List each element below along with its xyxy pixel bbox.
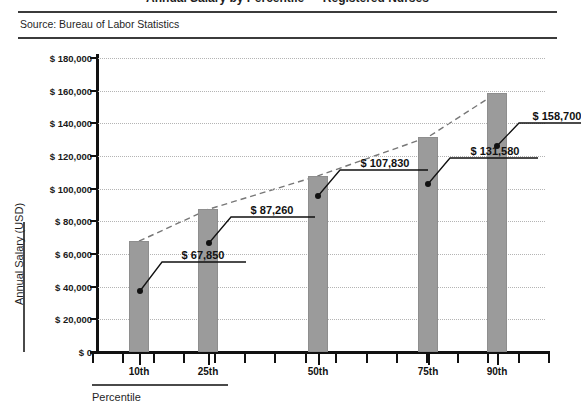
x-axis-tick-50th [318, 354, 320, 365]
data-label-90th: $ 158,700 [533, 110, 581, 122]
x-axis-label-25th: 25th [178, 366, 238, 377]
x-axis-minor-tick [396, 354, 398, 363]
x-axis-minor-tick [518, 354, 520, 363]
x-axis-minor-tick [244, 354, 246, 363]
x-axis-label-50th: 50th [288, 366, 348, 377]
x-axis-minor-tick [153, 354, 155, 363]
x-axis-tick-25th [208, 354, 210, 365]
x-axis-minor-tick [183, 354, 185, 363]
x-axis-minor-tick [457, 354, 459, 363]
x-axis-label-75th: 75th [398, 366, 458, 377]
x-axis-label-90th: 90th [467, 366, 527, 377]
x-axis-minor-tick [274, 354, 276, 363]
x-axis-minor-tick [214, 354, 216, 363]
x-axis-minor-tick [305, 354, 307, 363]
x-axis-label-10th: 10th [109, 366, 169, 377]
x-axis-minor-tick [122, 354, 124, 363]
x-axis-minor-tick [487, 354, 489, 363]
x-axis-tick-90th [497, 354, 499, 365]
x-axis-minor-tick [366, 354, 368, 363]
callout-anchor-dot [494, 143, 500, 149]
x-axis-tick-10th [139, 354, 141, 365]
x-axis-minor-tick [92, 354, 94, 363]
x-axis-tick-75th [428, 354, 430, 365]
x-axis-minor-tick [548, 354, 550, 363]
x-axis-minor-tick [335, 354, 337, 363]
